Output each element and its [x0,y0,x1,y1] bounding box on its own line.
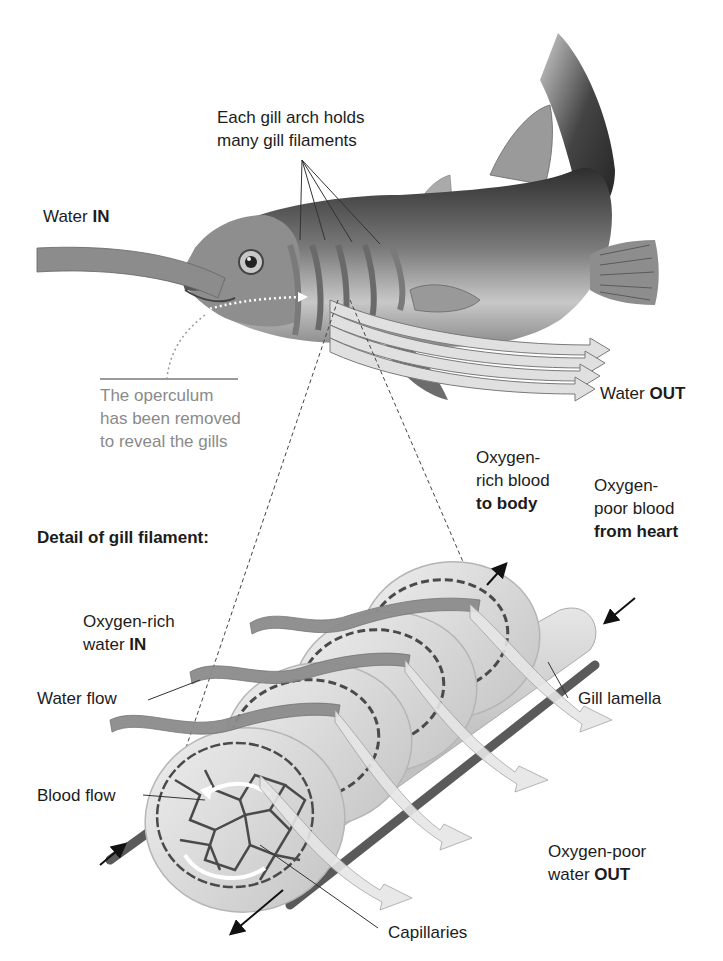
operculum-dotted-line [167,315,205,378]
detail-title: Detail of gill filament: [37,526,209,549]
label-gill-lamella: Gill lamella [578,687,661,710]
label-blood-flow: Blood flow [37,784,115,807]
label-gill-arch: Each gill arch holds many gill filaments [217,106,364,152]
label-water-flow: Water flow [37,687,117,710]
label-water-out: Water OUT [600,382,685,405]
label-oxygen-rich-blood: Oxygen- rich blood to body [476,446,550,515]
label-oxygen-poor-water: Oxygen-poor water OUT [548,840,646,886]
arrow-blood-from-heart [606,598,635,622]
label-capillaries: Capillaries [388,921,467,944]
fish-dorsal-fin [490,105,552,185]
label-water-in: Water IN [43,205,109,228]
label-operculum: The operculum has been removed to reveal… [100,384,241,453]
label-oxygen-poor-blood: Oxygen- poor blood from heart [594,474,678,543]
label-oxygen-rich-water: Oxygen-rich water IN [83,610,175,656]
